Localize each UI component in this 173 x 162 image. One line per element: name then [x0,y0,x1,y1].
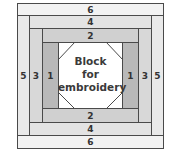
log-cabin-diagram: 6 6 5 5 4 4 3 3 2 2 1 1 [0,0,173,162]
center-label-line-1: Block [58,55,123,68]
center-label-line-3: embroidery [58,81,123,94]
center-label-line-2: for [58,68,123,81]
center-label: Block for embroidery [58,55,123,94]
